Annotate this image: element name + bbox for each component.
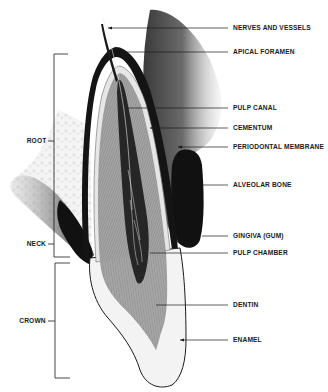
label-nerves-and-vessels: NERVES AND VESSELS bbox=[233, 23, 311, 32]
tooth-anatomy-diagram: NERVES AND VESSELS APICAL FORAMEN PULP C… bbox=[0, 0, 328, 392]
label-apical-foramen: APICAL FORAMEN bbox=[233, 47, 295, 56]
label-pulp-canal: PULP CANAL bbox=[233, 103, 277, 112]
label-pulp-chamber: PULP CHAMBER bbox=[233, 248, 288, 257]
label-cementum: CEMENTUM bbox=[233, 123, 272, 132]
tooth-illustration bbox=[0, 0, 328, 392]
label-alveolar-bone: ALVEOLAR BONE bbox=[233, 180, 292, 189]
arrowhead-nerves bbox=[108, 27, 112, 30]
label-periodontal-membrane: PERIODONTAL MEMBRANE bbox=[233, 142, 324, 151]
label-gingiva: GINGIVA (GUM) bbox=[233, 231, 284, 240]
label-crown: CROWN bbox=[20, 316, 46, 325]
crown-bracket bbox=[48, 263, 70, 378]
label-root: ROOT bbox=[26, 136, 46, 145]
label-neck: NECK bbox=[27, 239, 46, 248]
label-enamel: ENAMEL bbox=[233, 335, 262, 344]
label-dentin: DENTIN bbox=[233, 300, 258, 309]
